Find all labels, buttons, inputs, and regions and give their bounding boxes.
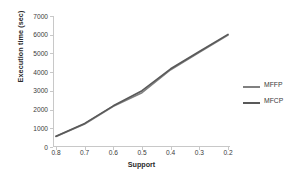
legend-label: MFCP [264, 97, 283, 104]
y-axis-tick-label: 4000 [18, 69, 48, 76]
chart-legend: MFFPMFCP [243, 80, 301, 112]
x-axis-tickmark [142, 147, 143, 150]
y-axis-tick-label: 7000 [18, 13, 48, 20]
legend-swatch-icon [243, 102, 260, 104]
legend-swatch-icon [243, 86, 260, 88]
y-axis-tickmark [50, 72, 53, 73]
x-axis-tickmark [171, 147, 172, 150]
y-axis-tickmark [50, 91, 53, 92]
x-axis-tick-label: 0.3 [187, 149, 211, 156]
y-axis-tickmark [50, 147, 53, 148]
x-axis-tickmark [113, 147, 114, 150]
y-axis-tick-label: 2000 [18, 106, 48, 113]
x-axis-tick-label: 0.4 [159, 149, 183, 156]
y-axis-tickmark [50, 128, 53, 129]
x-axis-tick-label: 0.6 [101, 149, 125, 156]
x-axis-tick-label: 0.7 [73, 149, 97, 156]
x-axis-tickmark [85, 147, 86, 150]
legend-label: MFFP [264, 81, 283, 88]
legend-item-mfcp[interactable]: MFCP [243, 96, 301, 112]
x-axis-tickmark [56, 147, 57, 150]
x-axis-tickmark [199, 147, 200, 150]
series-line-mfcp [56, 34, 228, 136]
y-axis-tick-label: 6000 [18, 31, 48, 38]
x-axis-tick-label: 0.5 [130, 149, 154, 156]
x-axis-tick-label: 0.8 [44, 149, 68, 156]
y-axis-tick-label: 5000 [18, 50, 48, 57]
x-axis-tick-label: 0.2 [216, 149, 240, 156]
series-plot-area [53, 16, 229, 147]
y-axis-tick-label: 1000 [18, 125, 48, 132]
y-axis-tickmark [50, 16, 53, 17]
y-axis-tick-labels: 01000200030004000500060007000 [18, 12, 48, 148]
y-axis-tickmark [50, 35, 53, 36]
legend-item-mffp[interactable]: MFFP [243, 80, 301, 96]
x-axis-tickmark [228, 147, 229, 150]
y-axis-tick-label: 3000 [18, 87, 48, 94]
x-axis-title: Support [53, 160, 230, 169]
line-chart: Execution time (sec) 0100020003000400050… [0, 0, 303, 177]
y-axis-tickmark [50, 110, 53, 111]
y-axis-tickmark [50, 53, 53, 54]
